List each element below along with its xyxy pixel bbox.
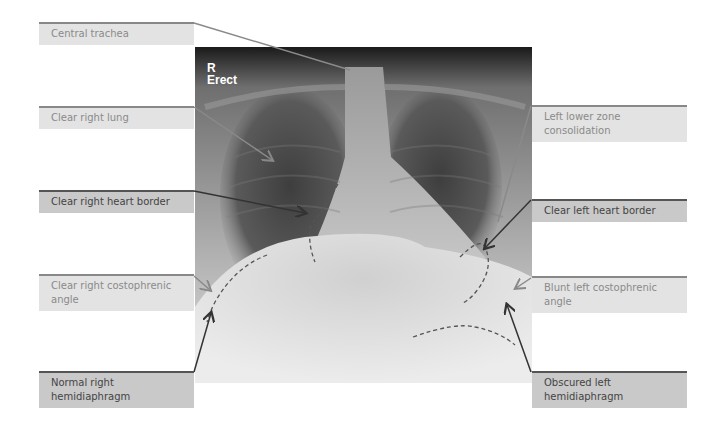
label-text: Clear right lung [51,112,129,123]
label-clear-right-costophrenic-angle: Clear right costophrenic angle [39,274,194,311]
label-text: Blunt left costophrenic angle [544,282,657,307]
label-text: Clear right costophrenic angle [51,280,171,305]
label-obscured-left-hemidiaphragm: Obscured left hemidiaphragm [532,371,687,408]
label-text: Clear left heart border [544,205,656,216]
label-text: Clear right heart border [51,196,170,207]
xray-side-marker: R Erect [207,62,237,86]
chest-xray-image: R Erect [195,47,532,383]
label-clear-right-heart-border: Clear right heart border [39,190,194,213]
label-text: Normal right hemidiaphragm [51,377,130,402]
label-blunt-left-costophrenic-angle: Blunt left costophrenic angle [532,276,687,313]
xray-rendering [195,47,532,383]
position-marker-text: Erect [207,74,237,86]
label-clear-right-lung: Clear right lung [39,106,194,129]
label-clear-left-heart-border: Clear left heart border [532,199,687,222]
label-text: Left lower zone consolidation [544,111,620,136]
label-left-lower-zone-consolidation: Left lower zone consolidation [532,105,687,142]
label-text: Obscured left hemidiaphragm [544,377,623,402]
label-normal-right-hemidiaphragm: Normal right hemidiaphragm [39,371,194,408]
label-central-trachea: Central trachea [39,22,194,45]
label-text: Central trachea [51,28,129,39]
